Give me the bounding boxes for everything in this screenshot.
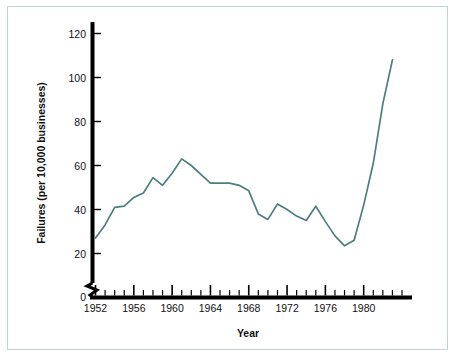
x-tick-label-1968: 1968: [237, 302, 261, 314]
y-tick-group: [94, 34, 101, 254]
y-tick-label-40: 40: [74, 204, 86, 216]
x-tick-label-1972: 1972: [275, 302, 299, 314]
chart-root: 120 100 80 60 40 20 0 195219561960196419…: [0, 0, 455, 361]
x-tick-label-1952: 1952: [84, 302, 108, 314]
y-tick-label-20: 20: [74, 248, 86, 260]
x-tick-label-1980: 1980: [352, 302, 376, 314]
x-axis-title: Year: [237, 327, 259, 339]
x-tick-label-1964: 1964: [199, 302, 223, 314]
x-tick-label-group: 19521956196019641968197219761980: [84, 302, 376, 314]
x-tick-group: [96, 285, 403, 296]
x-tick-label-1976: 1976: [314, 302, 338, 314]
y-tick-label-100: 100: [68, 72, 86, 84]
y-tick-label-80: 80: [74, 116, 86, 128]
y-axis-title: Failures (per 10,000 businesses): [35, 82, 47, 244]
y-tick-label-60: 60: [74, 160, 86, 172]
y-tick-label-120: 120: [68, 28, 86, 40]
series-line-business-failures: [96, 60, 393, 246]
y-tick-label-group: 120 100 80 60 40 20 0: [68, 28, 86, 304]
x-tick-label-1960: 1960: [160, 302, 184, 314]
line-chart: 120 100 80 60 40 20 0 195219561960196419…: [0, 0, 455, 361]
x-tick-label-1956: 1956: [122, 302, 146, 314]
